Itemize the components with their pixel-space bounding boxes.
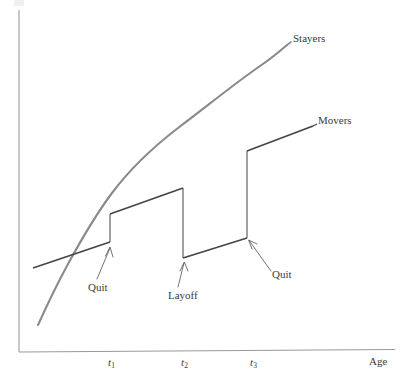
movers-series-group <box>33 124 317 268</box>
stayers-series-group <box>38 42 291 325</box>
layoff-arrow <box>178 262 188 287</box>
quit-1-arrow-shaft <box>97 248 110 279</box>
annotation-arrows-group <box>97 240 271 287</box>
tick-t3-subscript: 3 <box>253 361 257 370</box>
x-axis-title: Age <box>369 356 387 367</box>
layoff-arrow-shaft <box>178 263 184 287</box>
annotation-label-layoff: Layoff <box>168 290 198 301</box>
quit-2-arrow <box>249 240 271 271</box>
stayers-curve <box>38 45 287 325</box>
movers-segment-2 <box>110 188 183 214</box>
quit-1-arrow <box>97 247 113 279</box>
layoff-arrow-head <box>180 262 188 271</box>
axes-group <box>19 10 395 352</box>
tick-t2-subscript: 2 <box>184 361 188 370</box>
chart-canvas <box>0 0 404 383</box>
stayers-leader-line <box>287 42 291 45</box>
annotation-label-quit-2: Quit <box>272 269 292 280</box>
movers-leader-line <box>313 124 317 126</box>
x-axis-tick-label-t3: t3 <box>250 357 257 368</box>
quit-2-arrow-shaft <box>250 241 272 271</box>
x-axis-tick-label-t2: t2 <box>181 357 188 368</box>
earnings-age-profile-figure: Stayers Movers Quit Layoff Quit t1 t2 t3… <box>0 0 404 383</box>
stayers-series-label: Stayers <box>293 33 325 44</box>
annotation-label-quit-1: Quit <box>88 282 108 293</box>
movers-series-label: Movers <box>318 115 352 126</box>
x-axis-tick-label-t1: t1 <box>108 357 115 368</box>
tick-t1-subscript: 1 <box>111 361 115 370</box>
movers-segment-3 <box>183 238 247 258</box>
movers-segment-1 <box>33 242 110 268</box>
movers-segment-4 <box>247 126 313 151</box>
x-axis-line <box>19 350 395 353</box>
